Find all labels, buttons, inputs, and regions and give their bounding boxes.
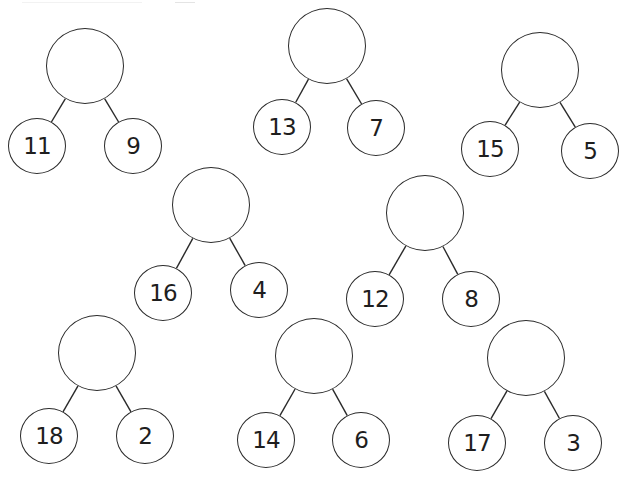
right-connector-line	[560, 102, 575, 127]
left-part-value: 16	[149, 280, 176, 306]
left-connector-line	[389, 246, 406, 275]
right-connector-line	[544, 391, 559, 418]
left-part-circle: 15	[461, 121, 519, 177]
left-connector-line	[491, 391, 507, 419]
left-connector-line	[51, 99, 65, 122]
whole-answer-circle[interactable]	[172, 167, 250, 243]
whole-answer-circle[interactable]	[58, 315, 136, 391]
left-part-circle: 16	[134, 265, 192, 321]
left-part-value: 15	[476, 136, 503, 162]
right-part-value: 7	[369, 115, 383, 141]
left-part-value: 11	[23, 133, 50, 159]
right-part-value: 4	[252, 277, 266, 303]
left-part-circle: 12	[346, 271, 404, 327]
left-part-value: 18	[35, 423, 62, 449]
left-connector-line	[505, 102, 520, 125]
left-connector-line	[280, 389, 295, 416]
left-connector-line	[296, 79, 309, 102]
right-connector-line	[347, 79, 362, 104]
right-part-circle: 4	[230, 262, 288, 318]
left-part-value: 17	[463, 430, 490, 456]
right-part-circle: 7	[347, 100, 405, 156]
right-connector-line	[105, 99, 119, 122]
left-part-circle: 14	[237, 412, 295, 468]
right-part-circle: 6	[332, 412, 390, 468]
right-connector-line	[116, 386, 131, 412]
left-part-circle: 13	[253, 99, 311, 155]
right-connector-line	[230, 238, 246, 266]
left-connector-line	[63, 386, 78, 412]
right-part-circle: 2	[116, 408, 174, 464]
left-part-circle: 17	[448, 415, 506, 471]
left-part-value: 12	[361, 286, 388, 312]
right-part-value: 2	[138, 423, 152, 449]
number-bond-worksheet: 119137155164128182146173	[0, 0, 632, 489]
right-part-circle: 5	[561, 123, 619, 179]
right-part-circle: 9	[104, 118, 162, 174]
right-connector-line	[333, 389, 348, 415]
left-part-circle: 11	[8, 118, 66, 174]
right-connector-line	[443, 247, 458, 275]
left-part-value: 14	[252, 427, 279, 453]
right-part-circle: 3	[544, 415, 602, 471]
whole-answer-circle[interactable]	[275, 318, 353, 394]
whole-answer-circle[interactable]	[386, 175, 464, 251]
whole-answer-circle[interactable]	[288, 8, 366, 84]
right-part-value: 6	[354, 427, 368, 453]
left-connector-line	[176, 238, 192, 268]
right-part-value: 8	[464, 286, 478, 312]
left-part-value: 13	[268, 114, 295, 140]
whole-answer-circle[interactable]	[46, 28, 124, 104]
whole-answer-circle[interactable]	[501, 32, 579, 108]
right-part-circle: 8	[442, 271, 500, 327]
left-part-circle: 18	[20, 408, 78, 464]
right-part-value: 3	[566, 430, 580, 456]
right-part-value: 9	[126, 133, 140, 159]
right-part-value: 5	[583, 138, 597, 164]
whole-answer-circle[interactable]	[487, 320, 565, 396]
